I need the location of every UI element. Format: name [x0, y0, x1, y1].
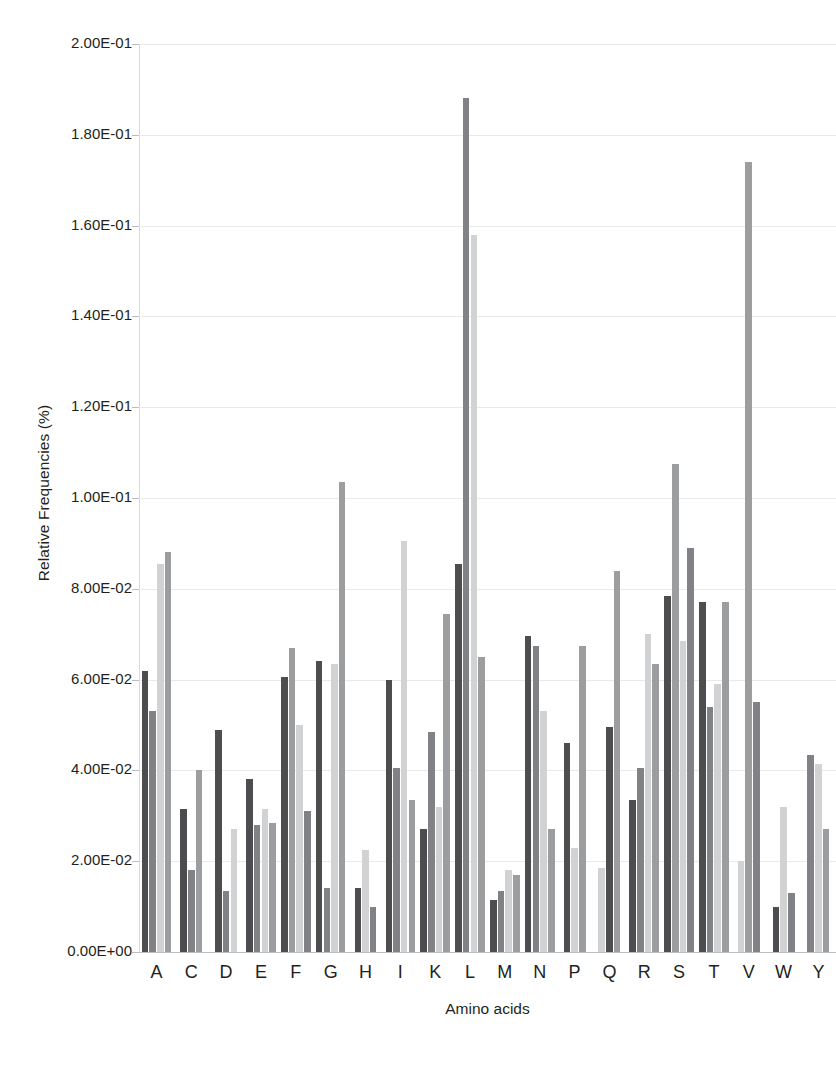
bar — [753, 702, 760, 952]
bar — [304, 811, 311, 952]
bar-group-Y — [801, 44, 836, 952]
x-axis-tick-label: V — [731, 958, 766, 988]
bar — [355, 888, 362, 952]
bar-group-M — [487, 44, 522, 952]
bar-group-I — [383, 44, 418, 952]
y-axis-tick-label: 8.00E-02 — [2, 579, 132, 596]
bar — [571, 848, 578, 952]
bar — [296, 725, 303, 952]
bar — [780, 807, 787, 952]
bar — [157, 564, 164, 952]
bar — [463, 98, 470, 952]
y-axis-tick-label: 1.60E-01 — [2, 216, 132, 233]
bar — [680, 641, 687, 952]
bar — [215, 730, 222, 952]
y-axis-tick-label: 1.00E-01 — [2, 488, 132, 505]
bar-group-R — [627, 44, 662, 952]
bar-group-S — [662, 44, 697, 952]
bar — [188, 870, 195, 952]
bar — [269, 823, 276, 952]
bar — [614, 571, 621, 952]
bar-group-H — [348, 44, 383, 952]
bar — [478, 657, 485, 952]
y-axis-tick-label: 1.20E-01 — [2, 397, 132, 414]
bar-group-G — [313, 44, 348, 952]
x-axis-tick-label: C — [174, 958, 209, 988]
bar-group-W — [766, 44, 801, 952]
bar — [254, 825, 261, 952]
bar-group-P — [557, 44, 592, 952]
y-axis-tick-mark — [132, 316, 139, 317]
bar-group-K — [418, 44, 453, 952]
plot-area: 2.00E-011.80E-011.60E-011.40E-011.20E-01… — [139, 44, 836, 952]
bar — [513, 875, 520, 952]
y-axis-tick-mark — [132, 44, 139, 45]
x-axis-tick-label: H — [348, 958, 383, 988]
bar — [223, 891, 230, 952]
bar — [548, 829, 555, 952]
y-axis-tick-mark — [132, 226, 139, 227]
bar — [316, 661, 323, 952]
x-axis-line — [139, 952, 836, 953]
bar — [815, 764, 822, 952]
x-axis-tick-labels: ACDEFGHIKLMNPQRSTVWY — [139, 958, 836, 988]
bar — [196, 770, 203, 952]
x-axis-tick-label: S — [662, 958, 697, 988]
x-axis-title: Amino acids — [139, 1000, 836, 1018]
bar — [401, 541, 408, 952]
x-axis-tick-label: R — [627, 958, 662, 988]
y-axis-tick-mark — [132, 407, 139, 408]
bar — [823, 829, 830, 952]
y-axis-tick-mark — [132, 589, 139, 590]
bar — [773, 907, 780, 952]
bar — [540, 711, 547, 952]
y-axis-tick-label: 2.00E-01 — [2, 34, 132, 51]
bar — [598, 868, 605, 952]
bar — [490, 900, 497, 952]
bar-group-C — [174, 44, 209, 952]
y-axis-tick-mark — [132, 498, 139, 499]
bar — [165, 552, 172, 952]
x-axis-tick-label: E — [244, 958, 279, 988]
bar — [339, 482, 346, 952]
bar — [707, 707, 714, 952]
bar-group-D — [209, 44, 244, 952]
bar — [687, 548, 694, 952]
x-axis-tick-label: N — [522, 958, 557, 988]
y-axis-tick-mark — [132, 135, 139, 136]
bar — [564, 743, 571, 952]
bar-group-Q — [592, 44, 627, 952]
y-axis-tick-label: 1.80E-01 — [2, 125, 132, 142]
bar — [443, 614, 450, 952]
bar — [699, 602, 706, 952]
x-axis-tick-label: T — [697, 958, 732, 988]
bar — [525, 636, 532, 952]
x-axis-tick-label: G — [313, 958, 348, 988]
x-axis-tick-label: F — [278, 958, 313, 988]
bar — [645, 634, 652, 952]
bar-groups — [139, 44, 836, 952]
bar — [652, 664, 659, 952]
bar — [142, 671, 149, 952]
x-axis-tick-label: W — [766, 958, 801, 988]
bar-group-A — [139, 44, 174, 952]
bar — [606, 727, 613, 952]
bar — [629, 800, 636, 952]
x-axis-tick-label: K — [418, 958, 453, 988]
bar — [745, 162, 752, 952]
bar — [664, 596, 671, 952]
bar — [738, 861, 745, 952]
y-axis-tick-label: 4.00E-02 — [2, 760, 132, 777]
bar — [498, 891, 505, 952]
x-axis-tick-label: D — [209, 958, 244, 988]
bar — [393, 768, 400, 952]
bar — [386, 680, 393, 952]
bar — [788, 893, 795, 952]
bar — [807, 755, 814, 952]
bar-group-F — [278, 44, 313, 952]
bar — [370, 907, 377, 952]
bar — [231, 829, 238, 952]
bar-group-N — [522, 44, 557, 952]
bar — [722, 602, 729, 952]
